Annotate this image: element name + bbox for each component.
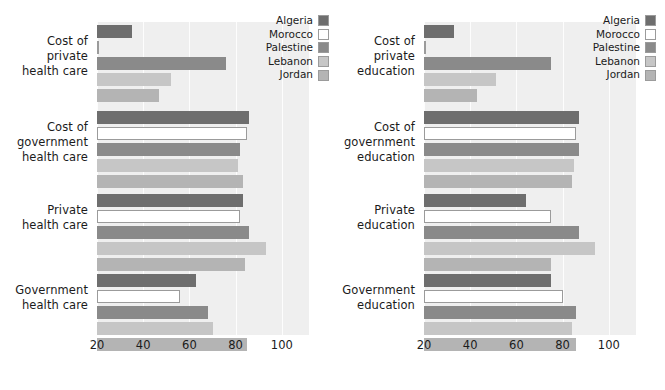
category-label: Private education: [329, 203, 415, 233]
bar-palestine: [97, 306, 208, 319]
legend-item[interactable]: Palestine: [237, 41, 329, 55]
bar-algeria: [97, 111, 249, 124]
legend-label: Jordan: [607, 68, 640, 82]
bar-lebanon: [97, 73, 171, 86]
bar-algeria: [97, 274, 196, 287]
legend-item[interactable]: Palestine: [564, 41, 656, 55]
axis-tick-label: 20: [417, 338, 432, 352]
legend-item[interactable]: Lebanon: [237, 55, 329, 69]
bar-morocco: [97, 210, 240, 223]
bar-palestine: [97, 143, 240, 156]
legend-label: Lebanon: [595, 55, 640, 69]
bar-lebanon: [97, 322, 213, 335]
bar-algeria: [424, 25, 454, 38]
legend-swatch-morocco: [645, 29, 656, 40]
axis-tick-label: 80: [228, 338, 243, 352]
legend-swatch-jordan: [318, 70, 329, 81]
bar-algeria: [424, 274, 551, 287]
legend-item[interactable]: Jordan: [237, 68, 329, 82]
legend-label: Palestine: [593, 41, 640, 55]
legend-swatch-jordan: [645, 70, 656, 81]
axis-tick-label: 60: [182, 338, 197, 352]
bar-palestine: [424, 143, 579, 156]
bar-lebanon: [424, 159, 574, 172]
legend: AlgeriaMoroccoPalestineLebanonJordan: [564, 14, 656, 82]
bar-group: [424, 111, 636, 191]
legend-swatch-palestine: [318, 42, 329, 53]
legend: AlgeriaMoroccoPalestineLebanonJordan: [237, 14, 329, 82]
category-label: Government education: [329, 283, 415, 313]
bar-morocco: [424, 127, 576, 140]
dual-bar-chart-figure: Cost of private health careCost of gover…: [0, 0, 665, 390]
category-label: Cost of private health care: [2, 34, 88, 79]
bar-morocco: [97, 127, 247, 140]
legend-item[interactable]: Morocco: [564, 28, 656, 42]
legend-item[interactable]: Jordan: [564, 68, 656, 82]
bar-group: [97, 194, 309, 274]
bar-jordan: [97, 89, 159, 102]
bar-algeria: [424, 194, 526, 207]
category-label: Cost of private education: [329, 34, 415, 79]
bar-morocco: [97, 41, 99, 54]
bar-jordan: [97, 175, 243, 188]
bar-lebanon: [97, 242, 266, 255]
bar-group: [97, 111, 309, 191]
x-axis: 20406080100: [332, 338, 664, 356]
legend-label: Lebanon: [268, 55, 313, 69]
bar-jordan: [424, 89, 477, 102]
legend-item[interactable]: Morocco: [237, 28, 329, 42]
axis-tick-label: 40: [463, 338, 478, 352]
axis-tick-label: 100: [598, 338, 620, 352]
legend-swatch-algeria: [318, 15, 329, 26]
legend-swatch-lebanon: [318, 56, 329, 67]
bar-morocco: [424, 41, 426, 54]
bar-palestine: [97, 57, 226, 70]
legend-label: Palestine: [266, 41, 313, 55]
legend-swatch-lebanon: [645, 56, 656, 67]
legend-label: Morocco: [596, 28, 640, 42]
legend-label: Algeria: [603, 14, 640, 28]
legend-item[interactable]: Algeria: [564, 14, 656, 28]
bar-algeria: [97, 194, 243, 207]
bar-morocco: [424, 210, 551, 223]
axis-tick-label: 100: [271, 338, 293, 352]
bar-group: [424, 194, 636, 274]
category-label: Government health care: [2, 283, 88, 313]
bar-jordan: [424, 175, 572, 188]
axis-tick-label: 40: [136, 338, 151, 352]
bar-lebanon: [424, 242, 595, 255]
bar-lebanon: [97, 159, 238, 172]
x-axis: 20406080100: [0, 338, 332, 356]
category-label: Cost of government education: [329, 120, 415, 165]
legend-label: Jordan: [280, 68, 313, 82]
legend-label: Algeria: [276, 14, 313, 28]
bar-lebanon: [424, 322, 572, 335]
bar-palestine: [97, 226, 249, 239]
legend-swatch-algeria: [645, 15, 656, 26]
bar-jordan: [424, 258, 551, 271]
chart-panel-health: Cost of private health careCost of gover…: [0, 0, 332, 390]
legend-item[interactable]: Lebanon: [564, 55, 656, 69]
legend-swatch-morocco: [318, 29, 329, 40]
bar-morocco: [424, 290, 563, 303]
axis-tick-label: 60: [509, 338, 524, 352]
bar-palestine: [424, 306, 576, 319]
bar-morocco: [97, 290, 180, 303]
bar-algeria: [424, 111, 579, 124]
bar-palestine: [424, 57, 551, 70]
bar-jordan: [97, 258, 245, 271]
axis-tick-label: 80: [555, 338, 570, 352]
legend-label: Morocco: [269, 28, 313, 42]
bar-algeria: [97, 25, 132, 38]
legend-item[interactable]: Algeria: [237, 14, 329, 28]
axis-tick-label: 20: [90, 338, 105, 352]
legend-swatch-palestine: [645, 42, 656, 53]
bar-palestine: [424, 226, 579, 239]
chart-panel-education: Cost of private educationCost of governm…: [332, 0, 665, 390]
category-label: Cost of government health care: [2, 120, 88, 165]
category-label: Private health care: [2, 203, 88, 233]
bar-lebanon: [424, 73, 496, 86]
